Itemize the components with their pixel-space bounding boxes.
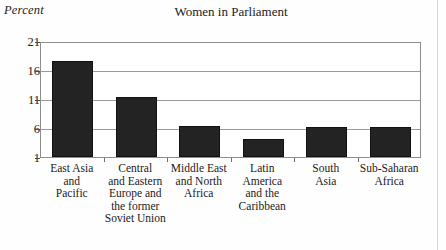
bar [243,139,284,157]
x-category-label-line: and the [227,187,299,200]
x-tick-mark [231,158,232,162]
gridline [41,129,420,130]
x-category-label-line: Africa [354,175,426,188]
x-tick-mark [358,158,359,162]
x-category-label-line: and [36,175,108,188]
chart-title: Women in Parliament [40,4,422,20]
y-axis: 21161161 [0,0,40,250]
x-category-label-line: Pacific [36,187,108,200]
x-tick-mark [167,158,168,162]
x-category-label-line: Sub-Saharan [354,162,426,175]
x-category-label: East AsiaandPacific [36,162,108,200]
chart-figure: Percent Women in Parliament 21161161 Eas… [0,0,446,250]
x-category-label-line: America [227,175,299,188]
gridline [41,71,420,72]
x-category-label-line: and North [163,175,235,188]
x-category-label-line: and Eastern [100,175,172,188]
x-category-label: Sub-SaharanAfrica [354,162,426,187]
x-category-label: SouthAsia [290,162,362,187]
bar [370,127,411,157]
x-axis-category-labels: East AsiaandPacificCentraland EasternEur… [40,162,421,248]
bar [52,61,93,157]
x-category-label: Centraland EasternEurope andthe formerSo… [100,162,172,225]
x-category-label-line: South [290,162,362,175]
x-category-label-line: Central [100,162,172,175]
bar [306,127,347,157]
x-category-label: Middle Eastand NorthAfrica [163,162,235,200]
plot-area [40,42,421,158]
bar [116,97,157,157]
x-category-label-line: Latin [227,162,299,175]
x-tick-mark [104,158,105,162]
x-category-label-line: Caribbean [227,200,299,213]
x-tick-mark [294,158,295,162]
x-category-label-line: the former [100,200,172,213]
x-category-label-line: Middle East [163,162,235,175]
page-edge-line [437,0,438,250]
bar [179,126,220,157]
y-tick-mark [35,158,40,159]
x-category-label: LatinAmericaand theCaribbean [227,162,299,212]
x-category-label-line: Africa [163,187,235,200]
x-category-label-line: Europe and [100,187,172,200]
gridline [41,100,420,101]
x-category-label-line: Soviet Union [100,212,172,225]
x-category-label-line: Asia [290,175,362,188]
x-category-label-line: East Asia [36,162,108,175]
